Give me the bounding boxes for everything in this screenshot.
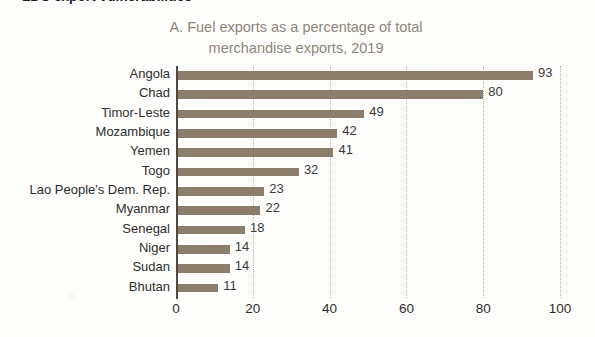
category-label-slot: Niger [0,240,170,259]
bar [176,129,337,138]
bar-row: 80 [176,85,560,104]
xtick-label-80: 80 [476,301,491,316]
xtick-label-100: 100 [549,301,572,316]
category-label: Timor-Leste [0,105,170,120]
bar [176,206,260,215]
bar [176,168,299,177]
category-label-slot: Angola [0,66,170,85]
bar-value-label: 14 [235,239,249,254]
bar-row: 14 [176,240,560,259]
category-label: Bhutan [0,279,170,294]
category-label-slot: Yemen [0,143,170,162]
bar [176,284,218,293]
bar-row: 49 [176,105,560,124]
category-label: Sudan [0,259,170,274]
bar-value-label: 32 [304,162,318,177]
bar [176,226,245,235]
plot-area: 938049424132232218141411 [176,66,560,298]
bar-value-label: 41 [338,142,352,157]
xtick-label-40: 40 [322,301,337,316]
bar-value-label: 22 [265,200,279,215]
bar-row: 93 [176,66,560,85]
category-label: Myanmar [0,201,170,216]
bar [176,245,230,254]
bar-row: 23 [176,182,560,201]
bar-value-label: 80 [488,84,502,99]
bar-row: 42 [176,124,560,143]
xtick-label-60: 60 [399,301,414,316]
bar-value-label: 18 [250,220,264,235]
bar [176,90,483,99]
xtick-label-20: 20 [245,301,260,316]
xtick-label-0: 0 [172,301,180,316]
category-label: Yemen [0,143,170,158]
bar-row: 41 [176,143,560,162]
bar [176,148,333,157]
category-label: Niger [0,240,170,255]
category-label-slot: Senegal [0,221,170,240]
bar-row: 18 [176,221,560,240]
page-heading: LDC export vulnerabilities [22,0,192,4]
bar-value-label: 14 [235,258,249,273]
category-label-slot: Myanmar [0,201,170,220]
bar-row: 32 [176,163,560,182]
category-label: Angola [0,66,170,81]
chart-page: LDC export vulnerabilities A. Fuel expor… [0,0,595,337]
chart-title-line-2: merchandise exports, 2019 [96,38,496,59]
bar-value-label: 23 [269,181,283,196]
bar-row: 11 [176,279,560,298]
category-label-slot: Bhutan [0,279,170,298]
category-label-slot: Chad [0,85,170,104]
category-label-slot: Mozambique [0,124,170,143]
category-axis-labels: AngolaChadTimor-LesteMozambiqueYemenTogo… [0,66,170,298]
bar-value-label: 11 [223,278,237,293]
chart-title-line-1: A. Fuel exports as a percentage of total [96,17,496,38]
value-axis-line [176,66,178,299]
category-label: Lao People's Dem. Rep. [0,182,170,197]
category-label: Chad [0,85,170,100]
bar [176,71,533,80]
value-axis-tick-labels: 020406080100 [176,301,560,323]
bar-value-label: 49 [369,104,383,119]
bar [176,187,264,196]
bar [176,264,230,273]
bar-row: 22 [176,201,560,220]
category-label-slot: Togo [0,163,170,182]
category-label: Mozambique [0,124,170,139]
category-label-slot: Lao People's Dem. Rep. [0,182,170,201]
category-label-slot: Sudan [0,259,170,278]
bar [176,110,364,119]
category-label: Senegal [0,221,170,236]
gridline-100 [560,66,562,298]
bar-row: 14 [176,259,560,278]
category-label: Togo [0,163,170,178]
bar-value-label: 93 [538,65,552,80]
chart-title: A. Fuel exports as a percentage of total… [96,17,496,59]
category-label-slot: Timor-Leste [0,105,170,124]
bar-value-label: 42 [342,123,356,138]
